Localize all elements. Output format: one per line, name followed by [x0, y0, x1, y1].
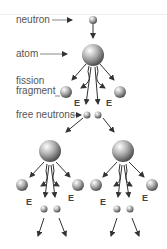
energy-label: E: [26, 197, 32, 207]
free-neutron-1: [84, 112, 91, 119]
free-neutron-2: [95, 112, 102, 119]
atom-right: [112, 140, 134, 162]
energy-label: E: [106, 98, 112, 108]
energy-label: E: [142, 193, 148, 203]
fission-chain-diagram: [0, 0, 167, 249]
neutron-sphere: [89, 16, 97, 24]
fragment-left: [60, 86, 72, 98]
atom-left: [39, 140, 61, 162]
energy-label: E: [100, 197, 106, 207]
energy-label: E: [68, 193, 74, 203]
energy-label: E: [74, 98, 80, 108]
fragment-right: [114, 86, 126, 98]
atom-sphere: [82, 44, 104, 66]
